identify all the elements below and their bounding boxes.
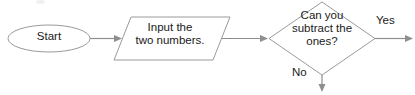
connector-start-to-input [90,35,122,42]
connector-decision-yes [375,35,413,42]
connector-decision-no [319,75,326,92]
input-node-shape [114,17,230,60]
flowchart-diagram: Start Input the two numbers. Can you sub… [0,0,415,95]
flowchart-canvas [0,0,415,95]
start-node-shape [8,25,90,52]
connector-input-to-decision [222,35,268,42]
decision-node-shape [269,2,375,75]
